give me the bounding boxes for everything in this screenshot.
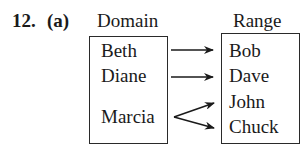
mapping-arrows [0,0,305,156]
arrow-marcia-john [174,103,214,117]
arrow-marcia-chuck [174,117,214,128]
